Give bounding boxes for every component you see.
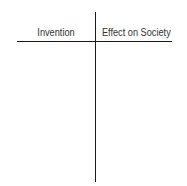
column-header-invention: Invention	[23, 27, 89, 39]
t-chart: Invention Effect on Society	[0, 0, 187, 186]
vertical-divider	[95, 12, 96, 182]
column-header-effect-on-society: Effect on Society	[102, 27, 168, 39]
